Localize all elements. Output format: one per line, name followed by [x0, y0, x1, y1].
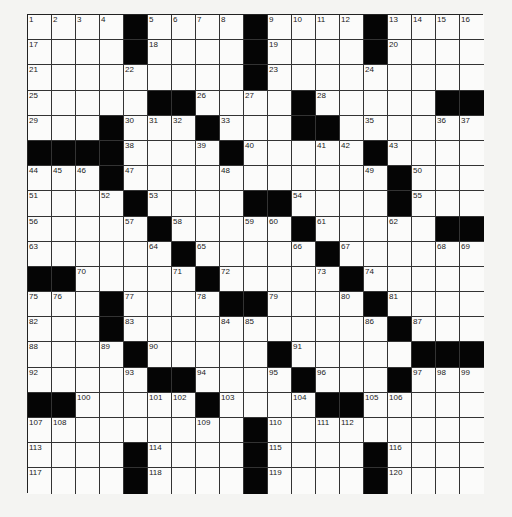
grid-cell[interactable]: 68: [436, 242, 460, 267]
grid-cell[interactable]: [148, 166, 172, 191]
grid-cell[interactable]: [52, 317, 76, 342]
grid-cell[interactable]: 16: [460, 15, 484, 40]
grid-cell[interactable]: [364, 368, 388, 393]
grid-cell[interactable]: 47: [124, 166, 148, 191]
grid-cell[interactable]: 67: [340, 242, 364, 267]
grid-cell[interactable]: 82: [28, 317, 52, 342]
grid-cell[interactable]: [244, 116, 268, 141]
grid-cell[interactable]: [172, 418, 196, 443]
grid-cell[interactable]: [100, 242, 124, 267]
grid-cell[interactable]: [460, 267, 484, 292]
grid-cell[interactable]: [412, 393, 436, 418]
grid-cell[interactable]: [412, 40, 436, 65]
grid-cell[interactable]: 104: [292, 393, 316, 418]
grid-cell[interactable]: 74: [364, 267, 388, 292]
grid-cell[interactable]: [460, 393, 484, 418]
grid-cell[interactable]: [364, 342, 388, 367]
grid-cell[interactable]: 106: [388, 393, 412, 418]
grid-cell[interactable]: [460, 191, 484, 216]
grid-cell[interactable]: 69: [460, 242, 484, 267]
grid-cell[interactable]: [172, 40, 196, 65]
grid-cell[interactable]: [340, 65, 364, 90]
grid-cell[interactable]: [292, 166, 316, 191]
grid-cell[interactable]: [412, 468, 436, 493]
grid-cell[interactable]: [52, 65, 76, 90]
grid-cell[interactable]: 66: [292, 242, 316, 267]
grid-cell[interactable]: [124, 242, 148, 267]
grid-cell[interactable]: [412, 217, 436, 242]
grid-cell[interactable]: 33: [220, 116, 244, 141]
grid-cell[interactable]: 19: [268, 40, 292, 65]
grid-cell[interactable]: [172, 443, 196, 468]
grid-cell[interactable]: [244, 393, 268, 418]
grid-cell[interactable]: [52, 217, 76, 242]
grid-cell[interactable]: [244, 166, 268, 191]
grid-cell[interactable]: 90: [148, 342, 172, 367]
grid-cell[interactable]: 32: [172, 116, 196, 141]
grid-cell[interactable]: [316, 468, 340, 493]
grid-cell[interactable]: [340, 317, 364, 342]
grid-cell[interactable]: [100, 393, 124, 418]
grid-cell[interactable]: [244, 342, 268, 367]
grid-cell[interactable]: [196, 342, 220, 367]
grid-cell[interactable]: [52, 443, 76, 468]
grid-cell[interactable]: 12: [340, 15, 364, 40]
grid-cell[interactable]: [268, 242, 292, 267]
grid-cell[interactable]: 108: [52, 418, 76, 443]
grid-cell[interactable]: [220, 217, 244, 242]
grid-cell[interactable]: 98: [436, 368, 460, 393]
grid-cell[interactable]: 40: [244, 141, 268, 166]
grid-cell[interactable]: [340, 116, 364, 141]
grid-cell[interactable]: [340, 191, 364, 216]
grid-cell[interactable]: [196, 40, 220, 65]
grid-cell[interactable]: 115: [268, 443, 292, 468]
grid-cell[interactable]: 44: [28, 166, 52, 191]
grid-cell[interactable]: [388, 418, 412, 443]
grid-cell[interactable]: 54: [292, 191, 316, 216]
grid-cell[interactable]: [196, 317, 220, 342]
grid-cell[interactable]: [340, 166, 364, 191]
grid-cell[interactable]: [340, 91, 364, 116]
grid-cell[interactable]: 3: [76, 15, 100, 40]
grid-cell[interactable]: [292, 141, 316, 166]
grid-cell[interactable]: 63: [28, 242, 52, 267]
grid-cell[interactable]: 84: [220, 317, 244, 342]
grid-cell[interactable]: [196, 191, 220, 216]
grid-cell[interactable]: [340, 40, 364, 65]
grid-cell[interactable]: 26: [196, 91, 220, 116]
grid-cell[interactable]: [436, 65, 460, 90]
grid-cell[interactable]: 27: [244, 91, 268, 116]
grid-cell[interactable]: [76, 91, 100, 116]
grid-cell[interactable]: 52: [100, 191, 124, 216]
grid-cell[interactable]: 58: [172, 217, 196, 242]
grid-cell[interactable]: 89: [100, 342, 124, 367]
grid-cell[interactable]: [412, 292, 436, 317]
grid-cell[interactable]: 94: [196, 368, 220, 393]
grid-cell[interactable]: 7: [196, 15, 220, 40]
grid-cell[interactable]: [340, 443, 364, 468]
grid-cell[interactable]: 53: [148, 191, 172, 216]
grid-cell[interactable]: 91: [292, 342, 316, 367]
grid-cell[interactable]: [292, 418, 316, 443]
grid-cell[interactable]: [436, 141, 460, 166]
grid-cell[interactable]: [436, 317, 460, 342]
grid-cell[interactable]: [148, 292, 172, 317]
grid-cell[interactable]: 21: [28, 65, 52, 90]
grid-cell[interactable]: [292, 267, 316, 292]
grid-cell[interactable]: [268, 141, 292, 166]
grid-cell[interactable]: 61: [316, 217, 340, 242]
grid-cell[interactable]: [100, 40, 124, 65]
grid-cell[interactable]: 118: [148, 468, 172, 493]
grid-cell[interactable]: [196, 65, 220, 90]
grid-cell[interactable]: [436, 418, 460, 443]
grid-cell[interactable]: [124, 418, 148, 443]
grid-cell[interactable]: [220, 368, 244, 393]
grid-cell[interactable]: [220, 65, 244, 90]
grid-cell[interactable]: [364, 418, 388, 443]
grid-cell[interactable]: 93: [124, 368, 148, 393]
grid-cell[interactable]: [436, 40, 460, 65]
grid-cell[interactable]: 103: [220, 393, 244, 418]
grid-cell[interactable]: 92: [28, 368, 52, 393]
grid-cell[interactable]: [76, 292, 100, 317]
grid-cell[interactable]: 95: [268, 368, 292, 393]
